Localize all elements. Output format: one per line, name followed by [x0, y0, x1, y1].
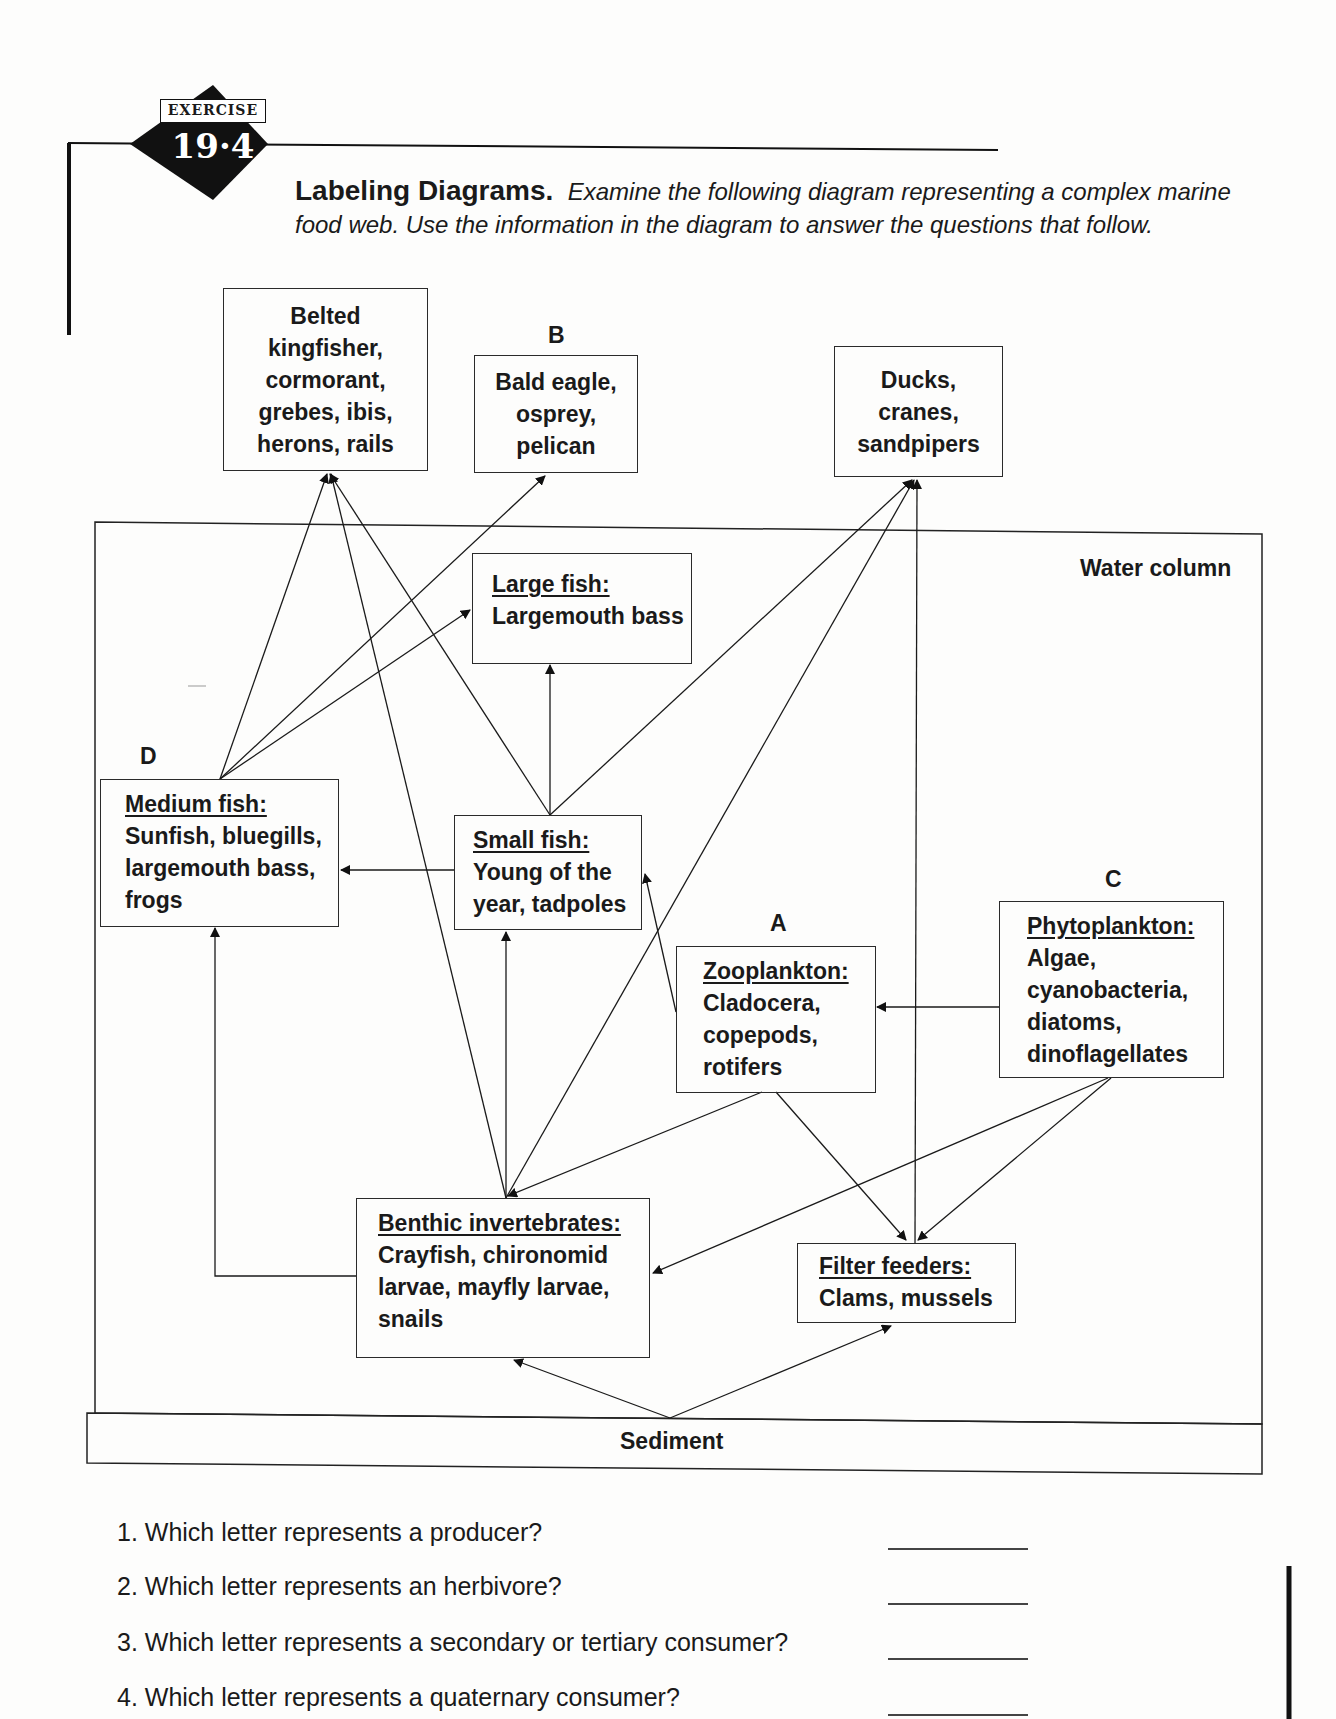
node-line: cyanobacteria, [1027, 974, 1223, 1006]
node-line: Bald eagle, [475, 366, 637, 398]
node-line: frogs [125, 884, 338, 916]
question-text: Which letter represents a secondary or t… [145, 1628, 788, 1656]
node-line: kingfisher, [224, 332, 427, 364]
node-title: Zooplankton: [703, 955, 875, 987]
question-number: 4. [117, 1683, 138, 1711]
node-medium-fish: Medium fish: Sunfish, bluegills, largemo… [100, 779, 339, 927]
node-line: Crayfish, chironomid [378, 1239, 649, 1271]
node-line: Clams, mussels [819, 1282, 1015, 1314]
question-number: 3. [117, 1628, 138, 1656]
node-filter-feeders: Filter feeders: Clams, mussels [797, 1243, 1016, 1323]
answer-blank-4[interactable] [888, 1714, 1028, 1716]
node-benthic-invertebrates: Benthic invertebrates: Crayfish, chirono… [356, 1198, 650, 1358]
instructions-heading: Labeling Diagrams. [295, 175, 553, 206]
node-phytoplankton: Phytoplankton: Algae, cyanobacteria, dia… [999, 901, 1224, 1078]
node-small-fish: Small fish: Young of the year, tadpoles [454, 815, 642, 930]
node-line: cranes, [835, 396, 1002, 428]
exercise-badge-label: EXERCISE [160, 99, 266, 123]
node-title: Phytoplankton: [1027, 910, 1223, 942]
answer-blank-2[interactable] [888, 1603, 1028, 1605]
zone-label-sediment: Sediment [620, 1428, 724, 1455]
node-line: copepods, [703, 1019, 875, 1051]
node-line: Belted [224, 300, 427, 332]
node-title: Medium fish: [125, 788, 338, 820]
node-bald-eagle: Bald eagle, osprey, pelican [474, 355, 638, 473]
node-line: pelican [475, 430, 637, 462]
answer-blank-3[interactable] [888, 1658, 1028, 1660]
question-text: Which letter represents an herbivore? [145, 1572, 562, 1600]
node-line: Young of the [473, 856, 641, 888]
instructions: Labeling Diagrams. Examine the following… [295, 175, 1255, 241]
node-zooplankton: Zooplankton: Cladocera, copepods, rotife… [676, 946, 876, 1093]
letter-label-d: D [140, 743, 157, 770]
node-line: year, tadpoles [473, 888, 641, 920]
question-text: Which letter represents a quaternary con… [145, 1683, 680, 1711]
node-line: Largemouth bass [492, 600, 691, 632]
node-line: Algae, [1027, 942, 1223, 974]
zone-label-water-column: Water column [1080, 555, 1231, 582]
node-title: Small fish: [473, 824, 641, 856]
node-large-fish: Large fish: Largemouth bass [472, 553, 692, 664]
node-line: sandpipers [835, 428, 1002, 460]
node-line: grebes, ibis, [224, 396, 427, 428]
node-line: largemouth bass, [125, 852, 338, 884]
node-title: Large fish: [492, 568, 691, 600]
node-line: Cladocera, [703, 987, 875, 1019]
node-line: larvae, mayfly larvae, [378, 1271, 649, 1303]
exercise-number: 19·4 [160, 126, 266, 166]
node-line: Ducks, [835, 364, 1002, 396]
node-line: diatoms, [1027, 1006, 1223, 1038]
letter-label-c: C [1105, 866, 1122, 893]
letter-label-a: A [770, 910, 787, 937]
node-line: rotifers [703, 1051, 875, 1083]
question-4: 4. Which letter represents a quaternary … [117, 1683, 680, 1712]
node-line: snails [378, 1303, 649, 1335]
question-text: Which letter represents a producer? [145, 1518, 542, 1546]
node-ducks: Ducks, cranes, sandpipers [834, 346, 1003, 477]
node-title: Filter feeders: [819, 1250, 1015, 1282]
letter-label-b: B [548, 322, 565, 349]
question-number: 1. [117, 1518, 138, 1546]
node-line: herons, rails [224, 428, 427, 460]
node-belted-kingfisher: Belted kingfisher, cormorant, grebes, ib… [223, 288, 428, 471]
answer-blank-1[interactable] [888, 1548, 1028, 1550]
node-line: dinoflagellates [1027, 1038, 1223, 1070]
question-3: 3. Which letter represents a secondary o… [117, 1628, 788, 1657]
node-line: osprey, [475, 398, 637, 430]
node-line: Sunfish, bluegills, [125, 820, 338, 852]
node-line: cormorant, [224, 364, 427, 396]
question-number: 2. [117, 1572, 138, 1600]
node-title: Benthic invertebrates: [378, 1207, 649, 1239]
question-2: 2. Which letter represents an herbivore? [117, 1572, 562, 1601]
question-1: 1. Which letter represents a producer? [117, 1518, 542, 1547]
